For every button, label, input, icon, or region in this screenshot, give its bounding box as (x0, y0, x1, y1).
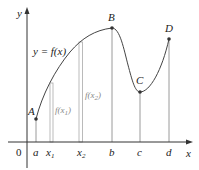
tick-x1: x1 (45, 146, 54, 160)
y-axis-arrow-icon (25, 7, 30, 14)
x-axis-arrow-icon (186, 140, 193, 145)
tick-a: a (33, 146, 39, 158)
point-c-marker (138, 90, 142, 94)
point-a-label: A (27, 105, 35, 117)
point-c-label: C (136, 74, 144, 86)
point-d-marker (167, 37, 171, 41)
point-a-marker (34, 117, 38, 121)
f-x1-label: f(x1) (55, 105, 71, 117)
function-label: y = f(x) (32, 45, 66, 58)
point-b-marker (110, 26, 114, 30)
point-d-label: D (164, 22, 173, 34)
bar-x2 (79, 42, 83, 142)
tick-c: c (137, 146, 142, 158)
axes (8, 10, 190, 168)
tick-d: d (166, 146, 172, 158)
origin-label: 0 (16, 146, 22, 158)
bar-x1 (50, 83, 53, 142)
tick-x2: x2 (76, 146, 86, 160)
f-x2-label: f(x2) (85, 90, 101, 102)
tick-b: b (109, 146, 115, 158)
point-b-label: B (108, 11, 115, 23)
y-axis-label: y (16, 7, 22, 19)
x-axis-label: x (185, 147, 191, 159)
function-graph-diagram: A B C D y = f(x) y x 0 a x1 x2 b c d f(x… (0, 0, 199, 170)
